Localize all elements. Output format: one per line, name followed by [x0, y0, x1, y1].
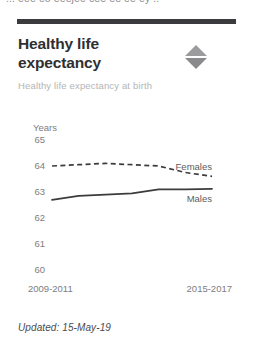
series-label-females: Females [176, 161, 213, 172]
x-axis-ticks: 2009-20112015-2017 [28, 283, 232, 294]
sort-ascending-arrow-icon [185, 45, 207, 56]
y-axis-tick-label: 65 [34, 134, 45, 145]
clipped-header-text: ... eee eo eeejee cee ee ee ey .. [6, 0, 159, 4]
series-labels: FemalesMales [176, 161, 213, 203]
series-label-males: Males [187, 193, 213, 204]
y-axis-unit-label: Years [33, 122, 57, 133]
x-axis-tick-label: 2009-2011 [28, 283, 73, 294]
y-axis-tick-label: 62 [34, 212, 45, 223]
y-axis-ticks: 656463626160 [34, 134, 45, 275]
sort-diamond-icon[interactable] [185, 45, 207, 69]
updated-timestamp: Updated: 15-May-19 [18, 322, 111, 333]
card-subtitle: Healthy life expectancy at birth [18, 80, 233, 91]
line-chart: Years 656463626160 FemalesMales 2009-201… [0, 118, 258, 298]
x-axis-tick-label: 2015-2017 [187, 283, 232, 294]
y-axis-tick-label: 64 [34, 160, 45, 171]
chart-svg: Years 656463626160 FemalesMales 2009-201… [0, 118, 258, 298]
y-axis-tick-label: 61 [34, 238, 45, 249]
clipped-header-strip: ... eee eo eeejee cee ee ee ey .. [0, 0, 258, 13]
page-title: Healthy life expectancy [18, 34, 168, 72]
healthy-life-expectancy-card: ... eee eo eeejee cee ee ee ey .. Health… [0, 0, 258, 344]
y-axis-tick-label: 63 [34, 186, 45, 197]
y-axis-tick-label: 60 [34, 264, 45, 275]
card-top-rule [17, 19, 236, 24]
sort-descending-arrow-icon [185, 58, 207, 69]
